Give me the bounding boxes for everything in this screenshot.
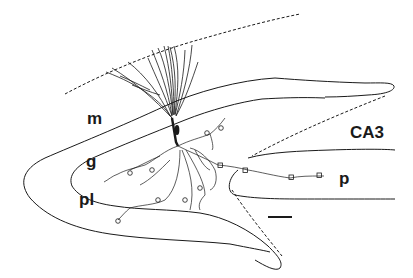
polymorphic-layer-label: pl [79, 191, 94, 208]
ca3-lower-line [229, 170, 395, 199]
axon-collaterals [104, 118, 324, 220]
projection-label: p [339, 170, 349, 187]
neuron-dendrites [106, 45, 198, 118]
ca3-region-label: CA3 [350, 124, 384, 141]
ca3-upper-line [248, 149, 395, 158]
granule-layer-outer-boundary [24, 78, 394, 252]
granule-layer-lower-boundary [35, 205, 110, 234]
granule-layer-inner-boundary [71, 98, 325, 270]
granule-layer-label: g [86, 153, 96, 170]
molecular-layer-label: m [87, 110, 102, 127]
hippocampal-fissure-dashed-line [65, 14, 300, 94]
neuron-diagram: m g pl CA3 p [0, 0, 413, 278]
